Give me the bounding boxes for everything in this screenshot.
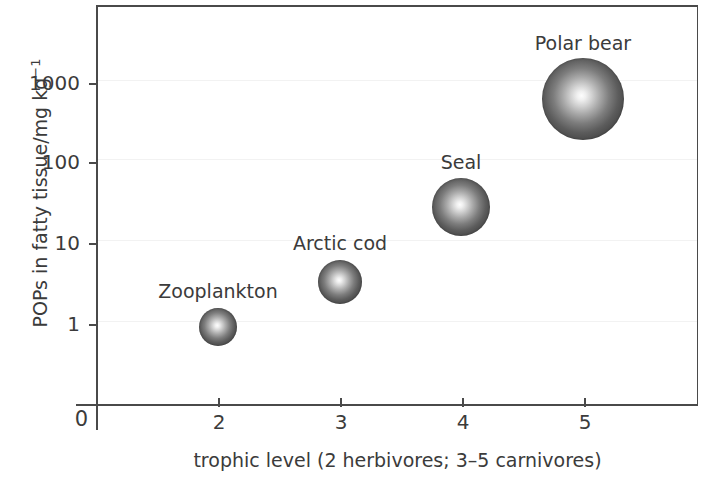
data-point-polar-bear xyxy=(542,58,624,140)
x-tick-mark-4 xyxy=(462,398,464,407)
y-axis-title-exponent: −1 xyxy=(28,59,43,78)
y-axis-title-text: POPs in fatty tissue/mg kg xyxy=(29,78,51,328)
x-tick-label-5: 5 xyxy=(565,411,605,433)
y-axis-line xyxy=(96,5,98,430)
x-tick-mark-2 xyxy=(218,398,220,407)
x-axis-line xyxy=(76,404,698,406)
data-point-arctic-cod xyxy=(318,260,362,304)
x-tick-mark-5 xyxy=(584,398,586,407)
x-tick-mark-3 xyxy=(340,398,342,407)
y-tick-mark-1000 xyxy=(89,83,98,85)
plot-area xyxy=(97,5,698,405)
data-label-zooplankton: Zooplankton xyxy=(158,281,278,302)
y-tick-mark-1 xyxy=(89,324,98,326)
gridline-10 xyxy=(98,240,697,241)
x-axis-title: trophic level (2 herbivores; 3–5 carnivo… xyxy=(97,448,698,472)
chart-figure: 1000 100 10 1 2 3 4 5 0 POPs in fatty ti… xyxy=(0,0,707,483)
x-tick-label-3: 3 xyxy=(321,411,361,433)
data-point-zooplankton xyxy=(199,308,237,346)
y-tick-mark-100 xyxy=(89,162,98,164)
x-tick-label-4: 4 xyxy=(443,411,483,433)
data-label-seal: Seal xyxy=(411,152,511,173)
axis-origin-label: 0 xyxy=(62,408,88,431)
data-point-seal xyxy=(432,178,490,236)
data-label-polar-bear: Polar bear xyxy=(523,33,643,54)
gridline-100 xyxy=(98,159,697,160)
data-label-arctic-cod: Arctic cod xyxy=(285,233,395,254)
gridline-1 xyxy=(98,321,697,322)
y-tick-mark-10 xyxy=(89,243,98,245)
x-tick-label-2: 2 xyxy=(199,411,239,433)
y-axis-title: POPs in fatty tissue/mg kg−1 xyxy=(29,0,51,393)
